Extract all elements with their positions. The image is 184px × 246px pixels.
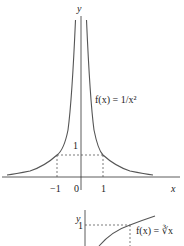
dashed-guides bbox=[57, 155, 103, 177]
curve-left-branch bbox=[7, 20, 76, 175]
function-label-1: f(x) = 1/x² bbox=[95, 94, 136, 106]
y-axis-label: y bbox=[76, 3, 82, 14]
tick-y-one: 1 bbox=[73, 140, 78, 151]
tick-neg-one: −1 bbox=[50, 183, 61, 194]
tick-one: 1 bbox=[101, 183, 106, 194]
tick-zero: 0 bbox=[74, 183, 79, 194]
diagram-canvas: y x f(x) = 1/x² 1 −1 0 1 y 1 f(x) = ∛x bbox=[0, 0, 184, 246]
x-axis-label: x bbox=[170, 183, 176, 194]
function-label-2: f(x) = ∛x bbox=[136, 224, 173, 237]
tick-y-one-2: 1 bbox=[78, 220, 83, 231]
